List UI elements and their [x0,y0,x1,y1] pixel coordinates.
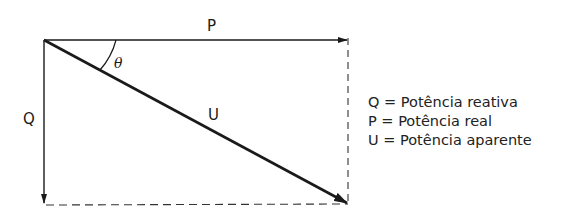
legend-text: Potência real [398,113,492,129]
legend-equals: = [381,113,393,129]
vector-p-label: P [207,19,216,34]
legend-symbol: P [368,113,377,129]
vector-u-label: U [208,108,219,123]
legend-item-p: P = Potência real [368,112,532,131]
vector-u-line [44,40,347,203]
legend-text: Potência reativa [401,94,518,110]
legend-symbol: U [368,132,379,148]
legend: Q = Potência reativa P = Potência real U… [368,93,532,150]
legend-item-u: U = Potência aparente [368,131,532,150]
legend-equals: = [384,94,396,110]
vector-q-label: Q [23,112,35,127]
legend-symbol: Q [368,94,379,110]
dashed-bottom-line [46,204,348,205]
legend-text: Potência aparente [400,132,532,148]
angle-theta-label: θ [114,56,122,70]
legend-equals: = [383,132,395,148]
legend-item-q: Q = Potência reativa [368,93,532,112]
